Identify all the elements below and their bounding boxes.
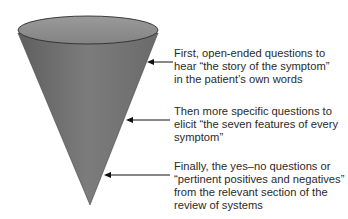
annotation-line: hear “the story of the symptom” (174, 60, 329, 73)
annotation-line: elicit “the seven features of every (174, 118, 338, 131)
annotation-line: “pertinent positives and negatives” (174, 173, 344, 186)
annotation-line: Finally, the yes–no questions or (174, 160, 344, 173)
annotation-line: from the relevant section of the (174, 186, 344, 199)
annotation-line: symptom” (174, 131, 338, 144)
annotation-open-ended: First, open-ended questions to hear “the… (174, 47, 329, 86)
annotation-line: in the patient’s own words (174, 73, 329, 86)
arrow-2-icon (126, 117, 170, 123)
cone-body (18, 33, 158, 205)
arrow-1-icon (147, 59, 173, 65)
annotation-line: First, open-ended questions to (174, 47, 329, 60)
annotation-specific-questions: Then more specific questions to elicit “… (174, 105, 338, 144)
cone-top-ellipse (18, 16, 158, 44)
annotation-line: review of systems (174, 199, 344, 212)
annotation-yes-no-questions: Finally, the yes–no questions or “pertin… (174, 160, 344, 212)
questioning-funnel-diagram: First, open-ended questions to hear “the… (0, 0, 348, 219)
arrow-3-icon (104, 172, 170, 178)
annotation-line: Then more specific questions to (174, 105, 338, 118)
